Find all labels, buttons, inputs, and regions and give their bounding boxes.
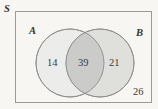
count-intersection: 39 [78,58,89,69]
count-b-only: 21 [109,58,120,69]
universal-set-label: S [4,4,10,15]
set-b-label: B [136,28,143,39]
count-a-only: 14 [47,58,58,69]
set-a-label: A [29,26,36,37]
count-outside: 26 [133,87,144,98]
venn-diagram-figure: S A B 14 39 21 26 [0,0,158,109]
